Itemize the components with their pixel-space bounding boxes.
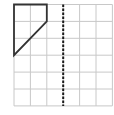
symmetry-grid-diagram bbox=[0, 0, 114, 115]
